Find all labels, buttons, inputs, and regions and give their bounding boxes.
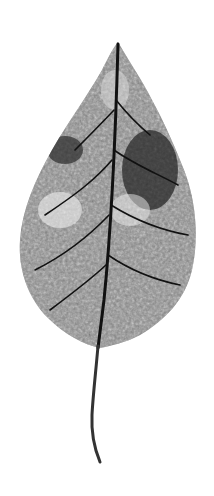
leaf-image	[0, 0, 214, 496]
leaf-stem	[92, 346, 100, 462]
leaf-illustration	[0, 0, 214, 496]
